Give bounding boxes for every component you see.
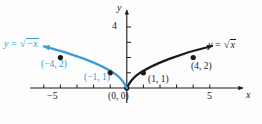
curve-label-black-eq: = [215, 39, 221, 50]
curve-label-sqrt-x: y = √x [208, 39, 236, 50]
y-tick-label-4: 4 [112, 21, 117, 31]
y-axis-label: y [117, 3, 121, 13]
x-axis [30, 85, 243, 89]
radical-sign-black: √x [223, 39, 236, 50]
point-label-neg1-1: (−1, 1) [84, 73, 110, 83]
plot-canvas [0, 0, 262, 124]
x-axis-label: x [246, 90, 250, 100]
y-axis-ticks [127, 27, 131, 73]
curve-label-blue-lhs: y [4, 38, 8, 49]
point-4-2 [191, 55, 196, 60]
point-label-neg4-2: (−4, 2) [41, 60, 67, 70]
curve-label-blue-radicand: −x [27, 38, 38, 49]
point-label-1-1: (1, 1) [148, 75, 169, 85]
point-label-4-2: (4, 2) [191, 62, 212, 72]
radical-sign-blue: √−x [19, 38, 39, 49]
curve-label-black-lhs: y [208, 39, 212, 50]
point-label-origin: (0, 0) [108, 92, 129, 102]
curve-label-black-radicand: x [231, 39, 235, 50]
x-tick-label-neg5: −5 [47, 91, 58, 101]
curve-label-sqrt-neg-x: y = √−x [4, 38, 39, 49]
graph-figure: y x 4 −5 5 (0, 0) (1, 1) (4, 2) (−1, 1) … [0, 0, 262, 124]
point-1-1 [141, 70, 146, 75]
curve-label-blue-eq: = [11, 38, 17, 49]
x-tick-label-5: 5 [207, 91, 212, 101]
